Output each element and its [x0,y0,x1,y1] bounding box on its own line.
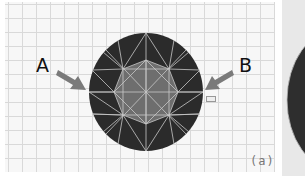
label-b: B [239,54,252,76]
scale-tag [206,96,216,102]
label-a: A [36,54,49,76]
gem-facet-diagram [0,0,305,176]
adjacent-panel-b [282,0,305,176]
caption-a: (a) [250,154,275,168]
